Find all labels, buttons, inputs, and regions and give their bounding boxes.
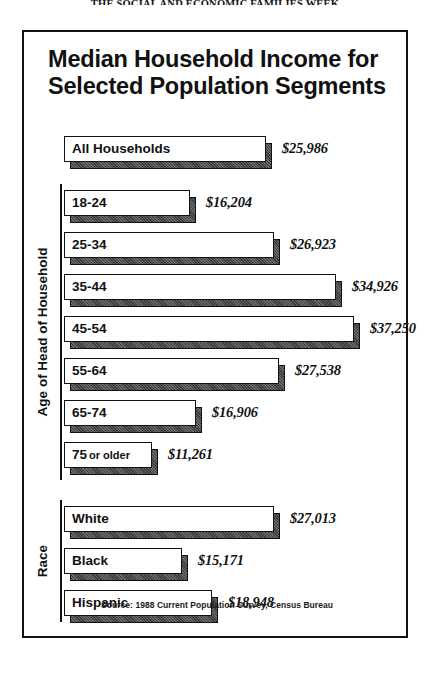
- chart-title-line-2: Selected Population Segments: [48, 73, 388, 100]
- bar-label: 25-34: [65, 238, 107, 252]
- bar-label: 18-24: [65, 196, 107, 210]
- bar-value-label: $15,171: [198, 552, 244, 569]
- age-group-axis-rule: [60, 184, 62, 480]
- bar-face: 18-24: [64, 190, 190, 216]
- bar-35-44[interactable]: 35-44: [64, 274, 336, 300]
- bar-all-households[interactable]: All Households: [64, 136, 266, 162]
- bar-label-suffix: or older: [87, 449, 130, 461]
- bar-label: White: [65, 512, 109, 526]
- bar-label: 45-54: [65, 322, 107, 336]
- source-text: 1988 Current Population Survey, Census B…: [135, 600, 333, 610]
- bar-value-label: $26,923: [290, 236, 336, 253]
- bar-face: White: [64, 506, 274, 532]
- age-group-axis-label: Age of Head of Household: [34, 184, 52, 480]
- chart-title: Median Household Income for Selected Pop…: [48, 46, 388, 101]
- bar-label: 55-64: [65, 364, 107, 378]
- bar-label: Black: [65, 554, 108, 568]
- bar-face: 55-64: [64, 358, 279, 384]
- source-label: Source:: [101, 600, 133, 610]
- bar-value-label: $27,013: [290, 510, 336, 527]
- bar-label: 65-74: [65, 406, 107, 420]
- bar-label: 75or older: [65, 448, 130, 462]
- bar-face: Black: [64, 548, 182, 574]
- bar-value-label: $37,250: [370, 320, 416, 337]
- page-running-header-text: THE SOCIAL AND ECONOMIC FAMILIES WEEK: [91, 0, 339, 5]
- bar-face: 75or older: [64, 442, 152, 468]
- chart-title-line-1: Median Household Income for: [48, 46, 378, 72]
- source-note: Source: 1988 Current Population Survey, …: [24, 600, 410, 610]
- plot-area: All Households$25,98618-24$16,20425-34$2…: [24, 114, 410, 584]
- bar-value-label: $11,261: [168, 446, 213, 463]
- page-running-header: THE SOCIAL AND ECONOMIC FAMILIES WEEK: [0, 0, 430, 5]
- bar-65-74[interactable]: 65-74: [64, 400, 196, 426]
- bar-45-54[interactable]: 45-54: [64, 316, 354, 342]
- bar-75-or-older[interactable]: 75or older: [64, 442, 152, 468]
- bar-value-label: $34,926: [352, 278, 398, 295]
- bar-face: 25-34: [64, 232, 274, 258]
- bar-face: All Households: [64, 136, 266, 162]
- bar-face: 35-44: [64, 274, 336, 300]
- bar-value-label: $27,538: [295, 362, 341, 379]
- bar-value-label: $16,204: [206, 194, 252, 211]
- bar-black[interactable]: Black: [64, 548, 182, 574]
- bar-label: All Households: [65, 142, 170, 156]
- bar-value-label: $25,986: [282, 140, 328, 157]
- bar-18-24[interactable]: 18-24: [64, 190, 190, 216]
- bar-label: 35-44: [65, 280, 107, 294]
- bar-face: 45-54: [64, 316, 354, 342]
- figure-frame: Median Household Income for Selected Pop…: [22, 30, 408, 638]
- bar-55-64[interactable]: 55-64: [64, 358, 279, 384]
- bar-white[interactable]: White: [64, 506, 274, 532]
- bar-value-label: $16,906: [212, 404, 258, 421]
- bar-25-34[interactable]: 25-34: [64, 232, 274, 258]
- bar-face: 65-74: [64, 400, 196, 426]
